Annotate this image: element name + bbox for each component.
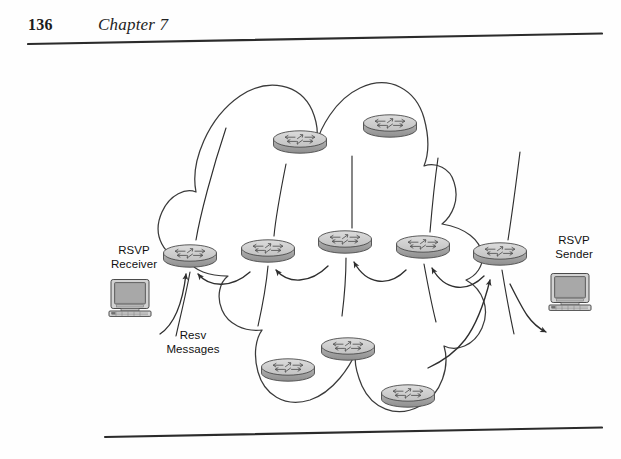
router-mid-2[interactable]: [242, 240, 295, 262]
router-top-left[interactable]: [274, 131, 327, 153]
router-top-right[interactable]: [364, 115, 417, 137]
router-mid-4[interactable]: [397, 236, 450, 258]
rsvp-sender-computer[interactable]: [549, 274, 591, 311]
router-edge-right[interactable]: [474, 243, 527, 265]
router-bottom-mid[interactable]: [322, 338, 375, 360]
router-edge-left[interactable]: [164, 245, 217, 267]
label-rsvp-receiver: RSVP Receiver: [98, 244, 170, 271]
arrow-edgeright-to-sender: [510, 284, 546, 332]
label-resv-messages: Resv Messages: [148, 329, 238, 356]
figure-rsvp-resv-flow: RSVP Receiver RSVP Sender Resv Messages: [0, 44, 621, 424]
rsvp-receiver-computer[interactable]: [109, 280, 151, 317]
arrow-host-to-router-edge-left: [160, 274, 186, 334]
router-bottom-left[interactable]: [262, 359, 315, 381]
label-rsvp-sender: RSVP Sender: [538, 234, 610, 261]
footer-rule: [27, 425, 603, 439]
router-bottom-right[interactable]: [382, 385, 435, 407]
router-mid-3[interactable]: [319, 231, 372, 253]
figure-canvas: [0, 44, 621, 424]
book-page: 136 Chapter 7: [0, 0, 621, 459]
